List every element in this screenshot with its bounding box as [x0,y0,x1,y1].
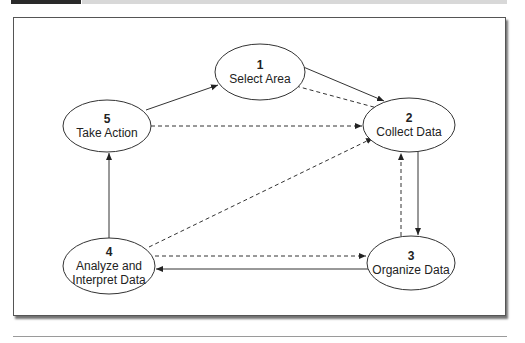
node-label: Take Action [76,126,137,140]
node-label: Collect Data [376,125,442,139]
node-label: Organize Data [372,263,450,277]
node-label: Analyze and [76,259,142,273]
node-3: 3Organize Data [367,236,455,290]
arrow-5-to-1 [146,85,218,110]
node-label: Select Area [229,72,291,86]
node-number: 2 [406,111,413,125]
node-number: 1 [257,58,264,72]
node-1: 1Select Area [215,44,305,100]
node-4: 4Analyze andInterpret Data [63,238,155,294]
node-number: 5 [104,112,111,126]
node-number: 3 [408,249,415,263]
node-5: 5Take Action [63,100,151,152]
node-2: 2Collect Data [363,98,455,152]
nodes: 1Select Area2Collect Data3Organize Data4… [63,44,455,294]
arrow-4-to-2 [149,138,373,247]
node-label: Interpret Data [72,273,146,287]
cycle-diagram: 1Select Area2Collect Data3Organize Data4… [0,0,525,343]
node-number: 4 [106,245,113,259]
